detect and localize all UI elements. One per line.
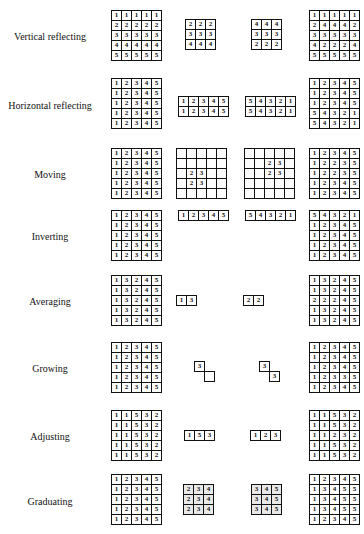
grid-cell: 3 bbox=[142, 431, 151, 440]
input-grid: 1234512345123451234512345 bbox=[111, 342, 162, 393]
grid-cell: 1 bbox=[310, 363, 319, 372]
grid-cell: 5 bbox=[152, 179, 161, 188]
grid-cell: 3 bbox=[340, 411, 349, 420]
grid-cell: 5 bbox=[132, 431, 141, 440]
grid-cell: 5 bbox=[152, 485, 161, 494]
grid-cell: 4 bbox=[142, 169, 151, 178]
grid-cell: 1 bbox=[310, 241, 319, 250]
grid-cell: 4 bbox=[340, 475, 349, 484]
grid-cell: 4 bbox=[142, 373, 151, 382]
grid-cell: 4 bbox=[142, 383, 151, 392]
grid-cell: 5 bbox=[310, 51, 319, 60]
grid-cell: 1 bbox=[310, 159, 319, 168]
grid-cell: 3 bbox=[330, 89, 339, 98]
input-grid: 1234512345123451234512345 bbox=[111, 210, 162, 261]
grid-cell: 3 bbox=[132, 159, 141, 168]
grid-cell: 1 bbox=[112, 441, 121, 450]
grid-cell: 1 bbox=[350, 119, 359, 128]
grid-cell: 4 bbox=[142, 41, 151, 50]
grid-cell: 3 bbox=[330, 79, 339, 88]
grid-cell: 1 bbox=[320, 11, 329, 20]
row-label: Graduating bbox=[0, 496, 100, 508]
grid-cell: 3 bbox=[132, 109, 141, 118]
grid-cell: 3 bbox=[330, 231, 339, 240]
grid-cell: 1 bbox=[310, 306, 319, 315]
grid-cell: 5 bbox=[340, 51, 349, 60]
grid-cell: 4 bbox=[142, 179, 151, 188]
grid-cell: 5 bbox=[350, 363, 359, 372]
grid-cell bbox=[207, 169, 216, 178]
grid-cell: 1 bbox=[112, 109, 121, 118]
grid-cell: 2 bbox=[320, 221, 329, 230]
grid-cell: 1 bbox=[310, 149, 319, 158]
grid-cell: 4 bbox=[142, 515, 151, 524]
grid-cell: 5 bbox=[272, 505, 281, 514]
grid-cell: 1 bbox=[122, 11, 131, 20]
grid-cell: 3 bbox=[132, 373, 141, 382]
grid-cell: 3 bbox=[194, 495, 203, 504]
grid-cell: 1 bbox=[310, 189, 319, 198]
grid-cell: 5 bbox=[350, 79, 359, 88]
grid-cell bbox=[265, 189, 274, 198]
grid-cell: 4 bbox=[340, 241, 349, 250]
grid-cell: 5 bbox=[330, 451, 339, 460]
grid-cell: 4 bbox=[262, 20, 271, 29]
grid-cell: 5 bbox=[330, 51, 339, 60]
grid-cell bbox=[245, 149, 254, 158]
grid-cell: 4 bbox=[340, 286, 349, 295]
grid-cell: 4 bbox=[142, 99, 151, 108]
grid-cell: 5 bbox=[152, 306, 161, 315]
grid-cell: 1 bbox=[112, 189, 121, 198]
grid-cell: 2 bbox=[189, 211, 198, 220]
grid-cell: 1 bbox=[310, 179, 319, 188]
grid-cell: 3 bbox=[340, 441, 349, 450]
grid-cell: 3 bbox=[330, 343, 339, 352]
grid-cell bbox=[217, 159, 226, 168]
grid-cell: 3 bbox=[132, 169, 141, 178]
grid-cell: 2 bbox=[276, 97, 285, 106]
grid-cell: 4 bbox=[330, 485, 339, 494]
grid-cell: 1 bbox=[320, 411, 329, 420]
grid-cell: 4 bbox=[186, 40, 195, 49]
grid-cell: 2 bbox=[122, 169, 131, 178]
grid-cell: 1 bbox=[310, 505, 319, 514]
grid-cell: 2 bbox=[320, 383, 329, 392]
grid-cell: 2 bbox=[340, 41, 349, 50]
grid-cell: 3 bbox=[112, 31, 121, 40]
grid-cell: 3 bbox=[330, 119, 339, 128]
grid-cell: 3 bbox=[142, 441, 151, 450]
grid-cell: 1 bbox=[132, 11, 141, 20]
grid-cell: 5 bbox=[272, 485, 281, 494]
grid-cell: 4 bbox=[330, 505, 339, 514]
row-label: Averaging bbox=[0, 296, 100, 308]
grid-cell: 2 bbox=[122, 505, 131, 514]
grid-cell: 1 bbox=[112, 211, 121, 220]
grid-cell: 5 bbox=[152, 79, 161, 88]
grid-cell: 4 bbox=[204, 495, 213, 504]
row-label: Inverting bbox=[0, 231, 100, 243]
grid-cell: 4 bbox=[340, 296, 349, 305]
grid-cell: 1 bbox=[350, 211, 359, 220]
grid-cell: 1 bbox=[310, 495, 319, 504]
grid-cell: 5 bbox=[152, 373, 161, 382]
grid-cell: 5 bbox=[310, 211, 319, 220]
grid-cell: 2 bbox=[122, 353, 131, 362]
grid-cell: 1 bbox=[112, 119, 121, 128]
grid-cell: 5 bbox=[246, 97, 255, 106]
grid-cell: 4 bbox=[142, 89, 151, 98]
grid-cell: 1 bbox=[112, 221, 121, 230]
output-grid: 1153211532112321153211532 bbox=[309, 410, 360, 461]
grid-cell: 4 bbox=[142, 189, 151, 198]
grid-cell: 2 bbox=[122, 149, 131, 158]
grid-cell: 1 bbox=[112, 306, 121, 315]
grid-cell: 3 bbox=[194, 485, 203, 494]
grid-cell: 2 bbox=[122, 221, 131, 230]
grid-cell: 5 bbox=[350, 495, 359, 504]
grid-cell: 5 bbox=[132, 441, 141, 450]
grid-cell: 3 bbox=[252, 505, 261, 514]
grid-cell bbox=[217, 169, 226, 178]
grid-cell: 2 bbox=[330, 41, 339, 50]
grid-cell bbox=[245, 159, 254, 168]
grid-cell: 3 bbox=[199, 211, 208, 220]
grid-cell: 3 bbox=[132, 119, 141, 128]
